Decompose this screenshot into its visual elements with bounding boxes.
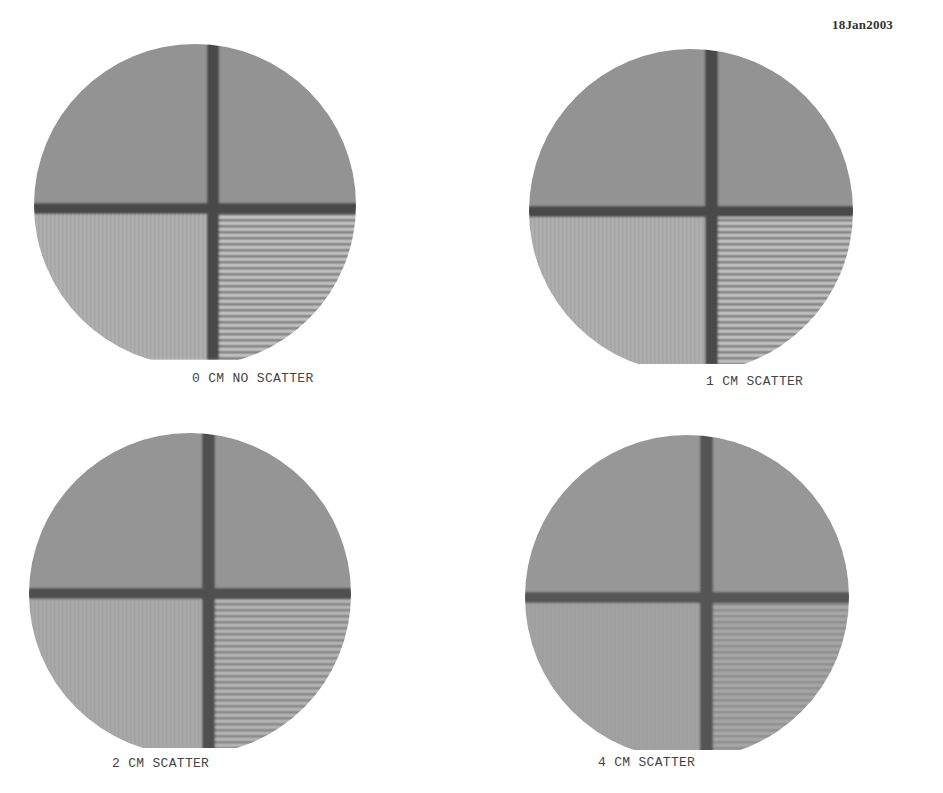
panel-label: 4 CM SCATTER (598, 755, 695, 770)
phantom-disc-4cm (0, 0, 943, 793)
